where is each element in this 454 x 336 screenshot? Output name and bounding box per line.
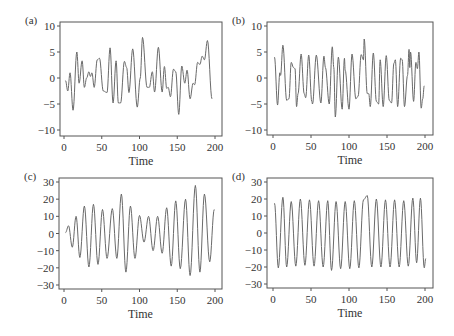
y-tick-label: 20 [251,193,263,205]
x-tick-label: 100 [341,293,358,305]
panel-d: −30−20−100102030050100150200Time(d) [0,0,454,336]
y-tick-label: 10 [251,210,263,222]
x-tick-label: 0 [270,293,276,305]
x-tick-label: 150 [379,293,396,305]
panel-label: (d) [232,170,245,183]
x-tick-label: 50 [306,293,318,305]
plot-frame [267,178,433,288]
y-tick-label: −20 [245,261,263,273]
chart-d: −30−20−100102030050100150200Time(d) [0,0,454,336]
y-tick-label: 0 [257,227,263,239]
y-tick-label: 30 [251,176,263,188]
x-tick-label: 200 [417,293,434,305]
y-tick-label: −10 [245,244,263,256]
x-axis-label: Time [338,306,363,320]
y-tick-label: −30 [245,278,263,290]
time-series-line [275,196,426,271]
